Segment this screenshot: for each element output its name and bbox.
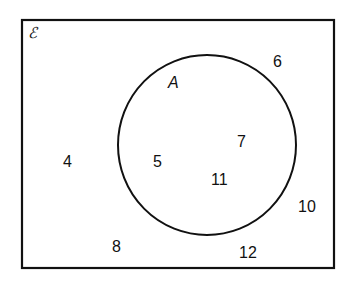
element-8: 8 <box>112 238 121 255</box>
element-7: 7 <box>237 133 246 150</box>
universal-set-symbol: ℰ <box>28 24 39 42</box>
element-6: 6 <box>273 53 282 70</box>
element-4: 4 <box>63 153 72 170</box>
element-5: 5 <box>153 153 162 170</box>
element-12: 12 <box>239 244 257 261</box>
element-11: 11 <box>211 171 228 188</box>
set-a-circle <box>118 55 296 235</box>
set-a-label: A <box>167 74 179 91</box>
element-10: 10 <box>298 198 316 215</box>
venn-diagram: ℰ A 6 7 5 11 4 8 12 10 <box>0 0 349 282</box>
